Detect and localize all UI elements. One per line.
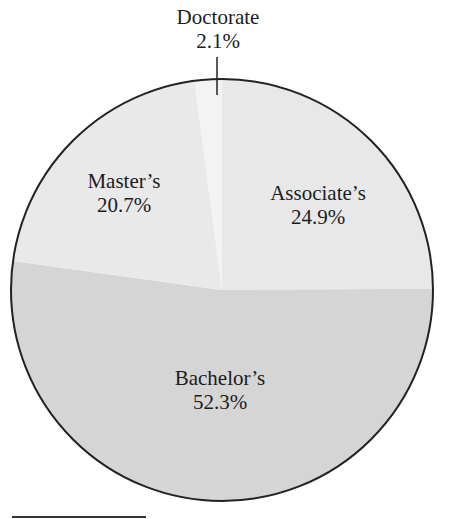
footnote-rule: [12, 516, 146, 518]
masters-label: Master’s: [87, 169, 160, 193]
associates-label: Associate’s: [270, 181, 366, 205]
pie-slices: [11, 79, 433, 501]
bachelors-value: 52.3%: [193, 390, 247, 414]
pie-chart: Doctorate 2.1% Master’s 20.7% Associate’…: [0, 0, 454, 519]
bachelors-label: Bachelor’s: [175, 366, 266, 390]
associates-value: 24.9%: [291, 205, 345, 229]
doctorate-label: Doctorate: [177, 5, 260, 29]
masters-value: 20.7%: [97, 193, 151, 217]
doctorate-value: 2.1%: [196, 29, 240, 53]
